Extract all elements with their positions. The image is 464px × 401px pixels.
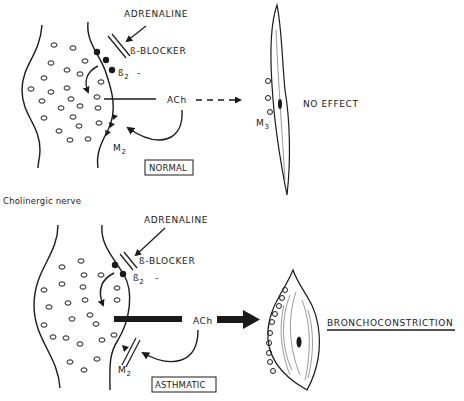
muscle-nucleus bbox=[297, 337, 302, 348]
asthmatic-panel: ß2 - ß-BLOCKER ADRENALINE ACh M2 ASTHMAT… bbox=[34, 215, 455, 392]
adrenaline-arrow bbox=[136, 228, 165, 255]
cholinergic-nerve-label: Cholinergic nerve bbox=[3, 196, 81, 206]
bronchoconstriction-label: BRONCHOCONSTRICTION bbox=[327, 318, 453, 328]
beta2-sign: - bbox=[155, 273, 159, 283]
diagram-canvas: ß2 - ß-BLOCKER ADRENALINE ACh M2 NORMAL bbox=[0, 0, 464, 401]
muscle-nucleus bbox=[278, 99, 282, 109]
beta2-receptors bbox=[112, 262, 126, 277]
m2-label: M2 bbox=[118, 365, 131, 378]
m2-receptor bbox=[122, 345, 129, 352]
m3-label: M3 bbox=[256, 118, 269, 131]
beta-blocker-bars bbox=[120, 252, 137, 270]
beta2-label: ß2 bbox=[133, 273, 144, 286]
beta2-inhibition-arrow bbox=[86, 66, 98, 92]
beta-blocker-label: ß-BLOCKER bbox=[130, 46, 186, 56]
acetylcholine-vesicles bbox=[28, 43, 104, 142]
asthmatic-state-label: ASTHMATIC bbox=[155, 380, 206, 390]
m2-label: M2 bbox=[113, 143, 126, 156]
adrenaline-label: ADRENALINE bbox=[124, 9, 188, 19]
ach-to-muscle-thick-arrow bbox=[217, 310, 260, 329]
beta2-label: ß2 bbox=[118, 68, 129, 81]
ach-feedback-arrow bbox=[128, 110, 182, 140]
normal-state-label: NORMAL bbox=[149, 163, 187, 173]
ach-release-bar-thick bbox=[114, 316, 182, 322]
normal-panel: ß2 - ß-BLOCKER ADRENALINE ACh M2 NORMAL bbox=[22, 5, 359, 195]
m2-dysfunction-bars bbox=[122, 338, 140, 367]
nerve-terminal-left-wall bbox=[34, 225, 60, 388]
nerve-terminal-right-membrane bbox=[88, 22, 114, 168]
m2-receptors bbox=[105, 114, 118, 136]
adrenaline-arrow bbox=[127, 26, 146, 41]
nerve-terminal-left-wall bbox=[22, 25, 42, 168]
ach-label: ACh bbox=[167, 95, 187, 105]
ach-label: ACh bbox=[193, 316, 213, 326]
beta2-sign: - bbox=[137, 68, 141, 78]
beta2-inhibition-arrow bbox=[101, 273, 114, 305]
no-effect-label: NO EFFECT bbox=[303, 99, 359, 109]
beta-blocker-bars bbox=[108, 34, 130, 58]
ach-feedback-arrow bbox=[143, 330, 198, 362]
beta-blocker-label: ß-BLOCKER bbox=[139, 256, 195, 266]
adrenaline-label: ADRENALINE bbox=[144, 215, 208, 225]
